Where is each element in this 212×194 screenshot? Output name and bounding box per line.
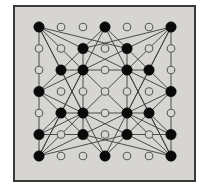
graph-node-filled bbox=[166, 151, 176, 161]
graph-node-filled bbox=[100, 151, 110, 161]
graph-node-open bbox=[101, 45, 109, 53]
graph-node-open bbox=[79, 152, 87, 160]
graph-node-filled bbox=[34, 151, 44, 161]
graph-node-open bbox=[57, 88, 65, 96]
graph-node-open bbox=[101, 131, 109, 139]
graph-node-open bbox=[57, 45, 65, 53]
graph-node-filled bbox=[56, 108, 66, 118]
graph-node-filled bbox=[122, 65, 132, 75]
graph-node-filled bbox=[78, 108, 88, 118]
graph-node-open bbox=[145, 131, 153, 139]
graph-node-filled bbox=[122, 108, 132, 118]
graph-node-open bbox=[101, 66, 109, 74]
graph-node-filled bbox=[78, 65, 88, 75]
graph-node-open bbox=[167, 66, 175, 74]
graph-node-filled bbox=[78, 43, 88, 53]
graph-node-open bbox=[145, 88, 153, 96]
graph-node-open bbox=[101, 88, 109, 96]
graph-node-open bbox=[57, 23, 65, 31]
graph-node-open bbox=[57, 131, 65, 139]
graph-node-open bbox=[167, 109, 175, 117]
graph-node-open bbox=[145, 23, 153, 31]
graph-node-open bbox=[167, 45, 175, 53]
graph-node-filled bbox=[166, 86, 176, 96]
graph-node-open bbox=[57, 152, 65, 160]
graph-node-filled bbox=[34, 129, 44, 139]
graph-node-filled bbox=[78, 129, 88, 139]
graph-node-open bbox=[145, 152, 153, 160]
graph-node-open bbox=[79, 88, 87, 96]
graph-node-open bbox=[35, 109, 43, 117]
graph-node-open bbox=[145, 45, 153, 53]
graph-node-filled bbox=[122, 43, 132, 53]
graph-node-filled bbox=[166, 129, 176, 139]
graph-node-filled bbox=[34, 22, 44, 32]
graph-node-filled bbox=[122, 129, 132, 139]
graph-node-open bbox=[35, 66, 43, 74]
graph-node-filled bbox=[144, 65, 154, 75]
graph-node-open bbox=[123, 23, 131, 31]
graph-node-filled bbox=[144, 108, 154, 118]
graph-node-open bbox=[35, 45, 43, 53]
graph-node-filled bbox=[34, 86, 44, 96]
graph-node-open bbox=[123, 88, 131, 96]
graph-node-open bbox=[123, 152, 131, 160]
figure-root bbox=[0, 0, 212, 194]
graph-node-filled bbox=[100, 22, 110, 32]
lattice-graph bbox=[0, 0, 212, 194]
graph-node-filled bbox=[56, 65, 66, 75]
graph-node-open bbox=[101, 109, 109, 117]
graph-node-filled bbox=[166, 22, 176, 32]
graph-node-open bbox=[79, 23, 87, 31]
